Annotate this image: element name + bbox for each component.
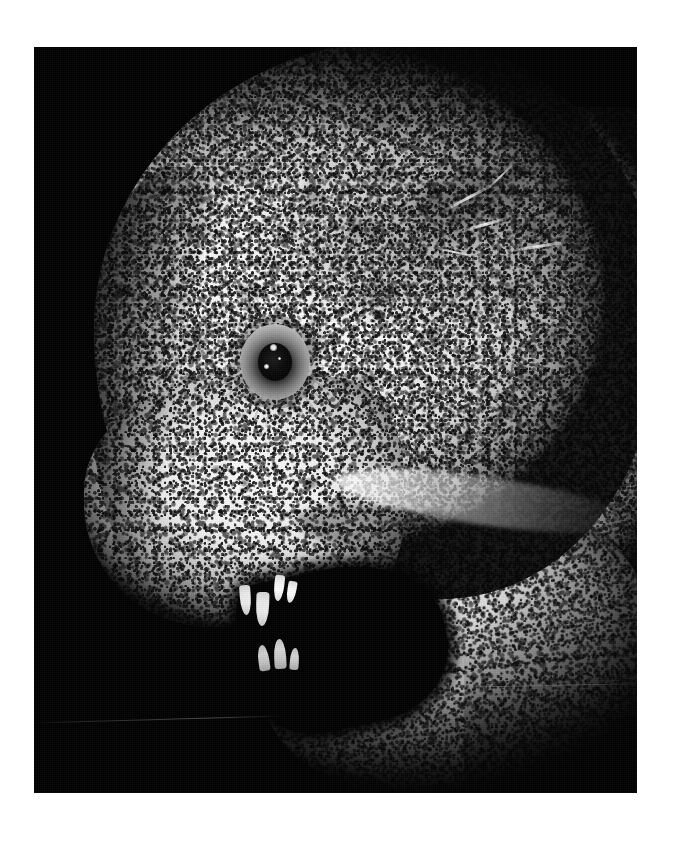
top-silhouette-falloff: [154, 47, 584, 187]
photographic-plate: [34, 47, 637, 793]
pore-4: [302, 477, 320, 489]
page-canvas: [0, 0, 674, 843]
wolf-eel-head: [34, 47, 637, 793]
bottom-silhouette-falloff: [264, 647, 637, 793]
pore-3: [239, 479, 250, 487]
